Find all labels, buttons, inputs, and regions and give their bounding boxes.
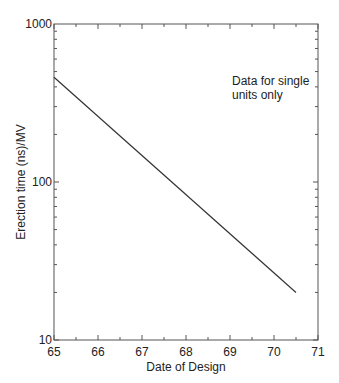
data-line (54, 77, 296, 292)
x-tick-label: 67 (135, 345, 149, 359)
axis-ticks (54, 24, 318, 340)
x-tick-label: 69 (223, 345, 237, 359)
annotation-line-1: Data for single (232, 74, 310, 88)
y-tick-label: 1000 (25, 17, 52, 31)
y-tick-labels: 10 100 1000 (25, 17, 52, 347)
x-tick-label: 70 (267, 345, 281, 359)
x-tick-label: 65 (47, 345, 61, 359)
plot-frame (54, 24, 318, 340)
x-tick-labels: 65 66 67 68 69 70 71 (47, 345, 325, 359)
x-tick-label: 71 (311, 345, 325, 359)
erection-time-chart: 65 66 67 68 69 70 71 10 100 1000 Date of… (0, 0, 339, 383)
y-tick-label: 10 (39, 333, 53, 347)
x-tick-label: 66 (91, 345, 105, 359)
x-tick-label: 68 (179, 345, 193, 359)
y-tick-label: 100 (32, 175, 52, 189)
x-axis-label: Date of Design (146, 360, 225, 374)
y-axis-label: Erection time (ns)/MV (14, 124, 28, 239)
annotation-line-2: units only (232, 88, 283, 102)
